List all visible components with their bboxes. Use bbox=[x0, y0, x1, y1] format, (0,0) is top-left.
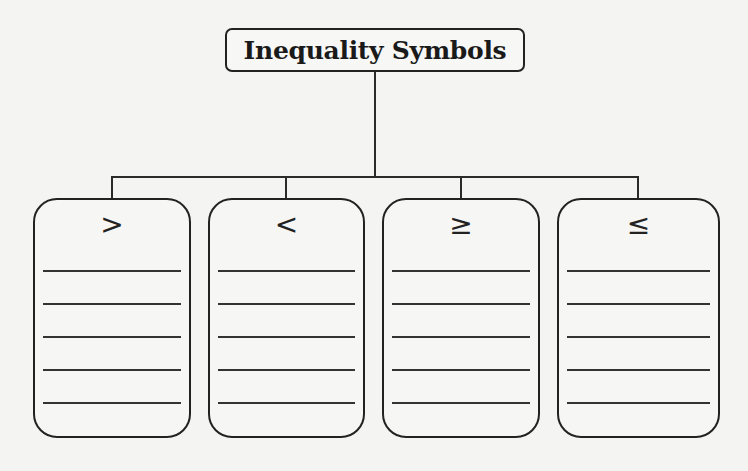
greater-than-symbol: > bbox=[35, 208, 189, 241]
less-than-symbol: < bbox=[210, 208, 363, 241]
branch-connector-2 bbox=[285, 176, 287, 199]
answer-line[interactable] bbox=[567, 369, 710, 371]
box-less-than: < bbox=[208, 198, 365, 438]
answer-line[interactable] bbox=[567, 402, 710, 404]
answer-line[interactable] bbox=[392, 369, 530, 371]
branch-connector-4 bbox=[637, 176, 639, 199]
answer-line[interactable] bbox=[392, 336, 530, 338]
box-greater-than-or-equal: ≥ bbox=[382, 198, 540, 438]
answer-line[interactable] bbox=[43, 303, 181, 305]
answer-line[interactable] bbox=[43, 369, 181, 371]
horizontal-connector bbox=[111, 176, 638, 178]
branch-connector-1 bbox=[111, 176, 113, 199]
answer-line[interactable] bbox=[218, 369, 355, 371]
answer-line[interactable] bbox=[392, 270, 530, 272]
answer-line[interactable] bbox=[392, 303, 530, 305]
branch-connector-3 bbox=[460, 176, 462, 199]
answer-line[interactable] bbox=[43, 402, 181, 404]
answer-line[interactable] bbox=[218, 402, 355, 404]
greater-than-or-equal-symbol: ≥ bbox=[384, 208, 538, 241]
answer-line[interactable] bbox=[43, 270, 181, 272]
diagram-title: Inequality Symbols bbox=[244, 36, 507, 65]
answer-line[interactable] bbox=[218, 270, 355, 272]
trunk-connector bbox=[374, 72, 376, 177]
less-than-or-equal-symbol: ≤ bbox=[559, 208, 718, 241]
answer-line[interactable] bbox=[43, 336, 181, 338]
answer-line[interactable] bbox=[218, 336, 355, 338]
answer-line[interactable] bbox=[567, 303, 710, 305]
answer-line[interactable] bbox=[567, 270, 710, 272]
answer-line[interactable] bbox=[567, 336, 710, 338]
box-less-than-or-equal: ≤ bbox=[557, 198, 720, 438]
box-greater-than: > bbox=[33, 198, 191, 438]
answer-line[interactable] bbox=[218, 303, 355, 305]
answer-line[interactable] bbox=[392, 402, 530, 404]
title-box: Inequality Symbols bbox=[225, 28, 525, 72]
